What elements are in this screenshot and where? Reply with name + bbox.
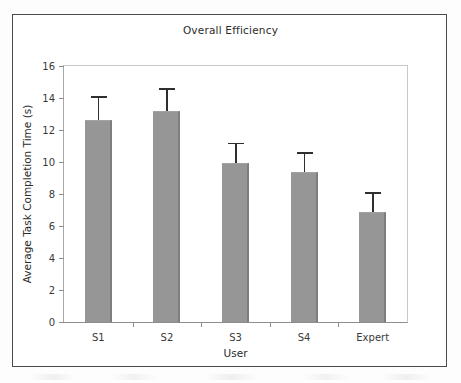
y-axis-tick-label: 2: [49, 285, 55, 296]
x-axis-label-expert: Expert: [356, 332, 389, 343]
error-bar-line-s4: [304, 152, 306, 171]
y-axis-tick-label: 16: [42, 61, 55, 72]
y-axis-tick-label: 4: [49, 253, 55, 264]
error-bar-cap-s2: [159, 88, 175, 90]
x-axis-tick: [133, 322, 134, 327]
bar-s4: [291, 172, 318, 322]
error-bar-cap-expert: [365, 192, 381, 194]
y-axis-tick: [59, 290, 64, 291]
plot-area: 0246810121416S1S2S3S4Expert: [63, 65, 408, 323]
scan-artifact: [30, 374, 430, 380]
bar-s3: [222, 163, 249, 322]
y-axis-tick-label: 14: [42, 93, 55, 104]
error-bar-cap-s1: [91, 96, 107, 98]
y-axis-title: Average Task Completion Time (s): [21, 65, 35, 323]
y-axis-tick: [59, 194, 64, 195]
x-axis-label-s2: S2: [161, 332, 174, 343]
scanned-page: Overall Efficiency Average Task Completi…: [0, 0, 461, 383]
bar-group: [359, 66, 386, 322]
y-axis-tick: [59, 162, 64, 163]
x-axis-tick: [338, 322, 339, 327]
bar-group: [153, 66, 180, 322]
x-axis-label-s1: S1: [92, 332, 105, 343]
error-bar-line-expert: [372, 192, 374, 211]
y-axis-tick: [59, 258, 64, 259]
y-axis-tick: [59, 226, 64, 227]
y-axis-tick-label: 8: [49, 189, 55, 200]
x-axis-tick: [201, 322, 202, 327]
y-axis-tick-label: 6: [49, 221, 55, 232]
figure-frame: Overall Efficiency Average Task Completi…: [12, 14, 447, 367]
y-axis-tick: [59, 322, 64, 323]
bar-group: [291, 66, 318, 322]
bar-s1: [85, 120, 112, 322]
error-bar-line-s1: [98, 96, 100, 120]
y-axis-tick-label: 12: [42, 125, 55, 136]
x-axis-label-s3: S3: [229, 332, 242, 343]
error-bar-cap-s4: [297, 152, 313, 154]
y-axis-tick-label: 0: [49, 317, 55, 328]
bar-s2: [153, 111, 180, 322]
y-axis-tick: [59, 130, 64, 131]
error-bar-cap-s3: [228, 143, 244, 145]
x-axis-label-s4: S4: [298, 332, 311, 343]
x-axis-title: User: [63, 347, 408, 359]
bar-group: [222, 66, 249, 322]
x-axis-tick: [270, 322, 271, 327]
y-axis-tick-label: 10: [42, 157, 55, 168]
bar-group: [85, 66, 112, 322]
y-axis-tick: [59, 66, 64, 67]
error-bar-line-s2: [166, 88, 168, 110]
chart-title: Overall Efficiency: [13, 24, 448, 36]
bar-expert: [359, 212, 386, 322]
error-bar-line-s3: [235, 143, 237, 163]
y-axis-tick: [59, 98, 64, 99]
